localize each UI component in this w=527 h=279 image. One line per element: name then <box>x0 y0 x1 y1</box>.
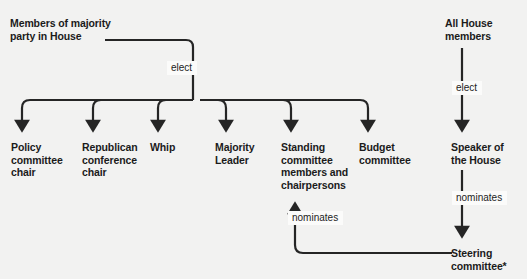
node-members-majority-party: Members of majority party in House <box>10 17 160 42</box>
node-all-house-members: All House members <box>445 17 525 42</box>
wire-branch-whip <box>158 100 186 126</box>
wire-branch-policy <box>22 100 193 126</box>
edge-label-elect-majority: elect <box>167 61 197 75</box>
node-steering-committee: Steering committee* <box>451 247 527 272</box>
node-speaker-of-the-house: Speaker of the House <box>451 141 527 166</box>
node-majority-leader: Majority Leader <box>215 141 285 166</box>
node-standing-committee-members: Standing committee members and chairpers… <box>281 141 363 191</box>
node-republican-conference-chair: Republican conference chair <box>82 141 154 179</box>
flowchart-diagram: Members of majority party in House All H… <box>0 0 527 279</box>
edge-label-nominates-steering: nominates <box>288 211 343 225</box>
node-whip: Whip <box>150 141 210 154</box>
edge-label-elect-speaker: elect <box>452 81 482 95</box>
wire-branch-standing <box>200 100 291 126</box>
edge-label-nominates-speaker: nominates <box>452 191 507 205</box>
wire-branch-majority-leader <box>200 100 226 126</box>
wire-branch-conference <box>93 100 186 126</box>
node-policy-committee-chair: Policy committee chair <box>11 141 81 179</box>
node-budget-committee: Budget committee <box>359 141 434 166</box>
